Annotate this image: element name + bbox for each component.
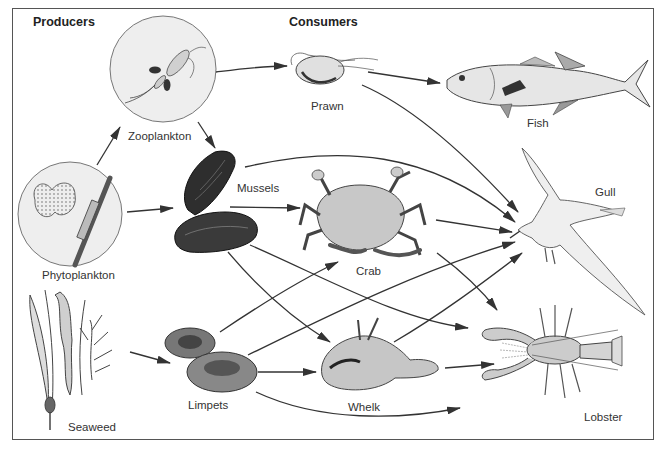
prawn-label: Prawn [311, 100, 344, 112]
gull-label: Gull [595, 186, 615, 198]
phytoplankton-illustration [18, 162, 122, 266]
arrow-limpets-crab [220, 262, 338, 332]
arrow-mussels-whelk [228, 252, 330, 342]
consumers-heading: Consumers [289, 15, 358, 29]
arrow-phytoplankton-zooplankton [97, 127, 120, 165]
crab-label: Crab [356, 265, 381, 277]
zooplankton-illustration [110, 16, 216, 122]
arrow-prawn-fish [368, 72, 440, 83]
arrow-crab-gull [436, 220, 512, 232]
prawn-illustration [291, 53, 378, 84]
arrow-mussels-crab [230, 207, 300, 208]
mussels-illustration [175, 151, 258, 252]
zooplankton-label: Zooplankton [128, 130, 191, 142]
crab-illustration [300, 167, 425, 255]
arrow-whelk-lobster [445, 364, 494, 368]
fish-label: Fish [527, 117, 549, 129]
mussels-label: Mussels [237, 182, 279, 194]
arrow-limpets-gull [248, 242, 515, 355]
producers-heading: Producers [33, 15, 95, 29]
food-web-diagram [0, 0, 664, 449]
arrow-zooplankton-mussels [198, 122, 215, 148]
arrow-zooplankton-prawn [216, 66, 287, 72]
limpets-label: Limpets [188, 399, 228, 411]
limpets-illustration [165, 328, 257, 392]
arrow-phytoplankton-mussels [127, 208, 173, 212]
whelk-label: Whelk [348, 401, 380, 413]
whelk-illustration [322, 318, 439, 390]
seaweed-label: Seaweed [68, 421, 116, 433]
arrow-crab-lobster [437, 253, 497, 310]
lobster-illustration [482, 305, 622, 398]
arrow-seaweed-limpets [130, 352, 170, 363]
lobster-label: Lobster [584, 411, 622, 423]
seaweed-illustration [30, 290, 112, 430]
fish-illustration [447, 52, 650, 118]
phytoplankton-label: Phytoplankton [42, 269, 115, 281]
gull-illustration [510, 148, 645, 315]
